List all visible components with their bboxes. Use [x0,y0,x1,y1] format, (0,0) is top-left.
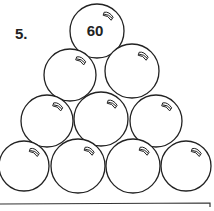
ball-r4c3 [106,139,160,193]
ball-r3c2 [74,92,128,146]
ball-outline [105,44,159,98]
ball-r2c1 [44,49,96,101]
ball-outline [0,141,49,191]
ball-value: 60 [87,22,104,39]
ball-outline [51,139,105,193]
ball-pyramid-figure: 5. 60 [0,0,214,211]
answer-line [0,203,210,207]
ball-r4c1 [0,141,49,191]
ball-r2c2 [105,44,159,98]
ball-outline [44,49,96,101]
ball-outline [106,139,160,193]
ball-pyramid: 60 [0,0,214,211]
ball-r4c4 [161,141,211,191]
ball-outline [21,95,73,147]
ball-r3c1 [21,95,73,147]
ball-outline [74,92,128,146]
ball-r4c2 [51,139,105,193]
ball-outline [161,141,211,191]
